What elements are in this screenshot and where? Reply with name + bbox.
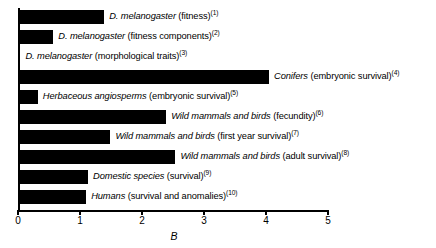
bar-label-taxon: Wild mammals and birds <box>180 151 280 161</box>
bar-row: D. melanogaster (fitness)(1) <box>18 10 218 24</box>
bar-label: D. melanogaster (fitness)(1) <box>104 12 218 21</box>
bar <box>18 10 104 24</box>
bar-label-taxon: Herbaceous angiosperms <box>43 91 147 101</box>
bar-label-taxon: Wild mammals and birds <box>171 111 271 121</box>
bar-row: Wild mammals and birds (first year survi… <box>18 130 299 144</box>
bar-label-taxon: D. melanogaster <box>109 11 176 21</box>
bar-label-reference: (6) <box>315 109 323 116</box>
bar-label-reference: (7) <box>291 129 299 136</box>
bar-label-reference: (9) <box>204 169 212 176</box>
bar-label: D. melanogaster (fitness components)(2) <box>53 32 219 41</box>
bar-label-reference: (8) <box>341 149 349 156</box>
bar-label: Domestic species (survival)(9) <box>88 172 211 181</box>
bar-label: Wild mammals and birds (first year survi… <box>110 132 299 141</box>
bar-label-trait: (morphological traits) <box>92 51 179 61</box>
bar-row: Domestic species (survival)(9) <box>18 170 211 184</box>
bar-label-taxon: Domestic species <box>93 171 164 181</box>
x-tick-label: 1 <box>77 216 83 226</box>
bar-row: D. melanogaster (morphological traits)(3… <box>18 50 187 64</box>
bar-row: Herbaceous angiosperms (embryonic surviv… <box>18 90 238 104</box>
bar-label-reference: (1) <box>211 9 219 16</box>
bar-row: Humans (survival and anomalies)(10) <box>18 190 237 204</box>
bar-label-reference: (10) <box>226 189 237 196</box>
bar-label-trait: (adult survival) <box>280 151 341 161</box>
x-tick-label: 3 <box>201 216 207 226</box>
bar <box>18 70 269 84</box>
bar-label-trait: (survival) <box>164 171 203 181</box>
bar-label: Herbaceous angiosperms (embryonic surviv… <box>38 92 238 101</box>
bar-label: Wild mammals and birds (fecundity)(6) <box>166 112 323 121</box>
bar-label-trait: (fitness) <box>176 11 211 21</box>
bar-label: Humans (survival and anomalies)(10) <box>86 192 237 201</box>
bar-row: Wild mammals and birds (fecundity)(6) <box>18 110 323 124</box>
bar-label-trait: (fitness components) <box>125 31 212 41</box>
bar <box>18 90 38 104</box>
x-axis-line <box>18 210 328 212</box>
plot-area: D. melanogaster (fitness)(1)D. melanogas… <box>0 0 436 210</box>
bar-label: Conifers (embryonic survival)(4) <box>269 72 399 81</box>
bar <box>18 190 86 204</box>
bar-row: Wild mammals and birds (adult survival)(… <box>18 150 349 164</box>
bar-label-trait: (first year survival) <box>215 131 291 141</box>
bar-label-trait: (fecundity) <box>271 111 316 121</box>
bar-label-taxon: Wild mammals and birds <box>115 131 215 141</box>
bar-label-reference: (2) <box>212 29 220 36</box>
bar-label: Wild mammals and birds (adult survival)(… <box>175 152 349 161</box>
bar <box>18 130 110 144</box>
bar-label-reference: (3) <box>179 49 187 56</box>
x-tick-label: 5 <box>325 216 331 226</box>
bar-label-trait: (embryonic survival) <box>308 71 392 81</box>
bar-label-trait: (survival and anomalies) <box>125 191 226 201</box>
bar-label-reference: (4) <box>392 69 400 76</box>
bar-row: D. melanogaster (fitness components)(2) <box>18 30 220 44</box>
bar-label-taxon: D. melanogaster <box>58 31 125 41</box>
bar <box>18 170 88 184</box>
bar-label: D. melanogaster (morphological traits)(3… <box>20 52 187 61</box>
bar <box>18 30 53 44</box>
x-axis-title: B <box>0 231 348 242</box>
x-tick-label: 0 <box>15 216 21 226</box>
bar <box>18 110 166 124</box>
bar-label-trait: (embryonic survival) <box>147 91 231 101</box>
bar-row: Conifers (embryonic survival)(4) <box>18 70 399 84</box>
bar-label-taxon: Conifers <box>274 71 308 81</box>
bar-label-taxon: D. melanogaster <box>25 51 92 61</box>
x-tick-label: 2 <box>139 216 145 226</box>
bar <box>18 150 175 164</box>
bar-label-reference: (5) <box>230 89 238 96</box>
x-tick-label: 4 <box>263 216 269 226</box>
bar-chart-figure: D. melanogaster (fitness)(1)D. melanogas… <box>0 0 436 248</box>
bar-label-taxon: Humans <box>91 191 125 201</box>
